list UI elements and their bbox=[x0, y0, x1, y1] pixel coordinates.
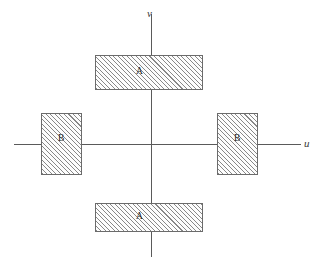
region-b-right-label: B bbox=[234, 134, 240, 144]
region-a-top-label: A bbox=[136, 67, 143, 77]
region-a-bottom bbox=[95, 203, 203, 232]
region-a-bottom-label: A bbox=[136, 212, 143, 222]
region-b-right bbox=[217, 113, 258, 175]
region-b-left bbox=[41, 113, 82, 175]
region-b-left-label: B bbox=[58, 134, 64, 144]
coordinate-plane-figure: u v ABBA bbox=[0, 0, 319, 264]
v-axis-label: v bbox=[147, 8, 152, 19]
region-a-top bbox=[95, 55, 203, 90]
u-axis-label: u bbox=[304, 138, 310, 149]
